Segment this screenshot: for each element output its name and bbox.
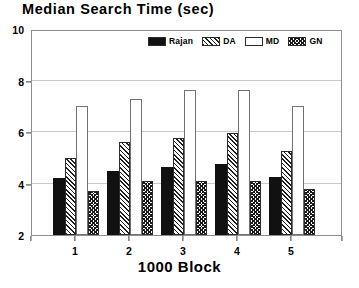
x-tick-label: 3: [180, 245, 186, 257]
legend-label: MD: [266, 36, 280, 46]
x-tick-mark: [236, 236, 237, 241]
x-tick-mark: [290, 236, 291, 241]
y-tick-label: 8: [18, 76, 24, 88]
chart-legend: RajanDAMDGN: [148, 36, 323, 46]
bar-gn-4: [250, 181, 262, 235]
legend-item-gn[interactable]: GN: [288, 36, 322, 46]
legend-label: DA: [223, 36, 236, 46]
legend-item-md[interactable]: MD: [245, 36, 280, 46]
legend-item-da[interactable]: DA: [202, 36, 236, 46]
bar-md-4: [238, 90, 250, 235]
bar-rajan-5: [269, 177, 281, 235]
bar-rajan-2: [107, 171, 119, 235]
bar-md-3: [184, 90, 196, 235]
legend-swatch-rajan: [148, 37, 166, 46]
bar-gn-2: [142, 181, 154, 235]
chart-title: Median Search Time (sec): [22, 1, 214, 17]
legend-swatch-gn: [288, 37, 306, 46]
bars-layer: [32, 31, 341, 235]
x-tick-mark: [182, 236, 183, 241]
legend-label: GN: [309, 36, 322, 46]
bar-md-2: [130, 99, 142, 235]
x-axis: 12345: [31, 236, 342, 258]
bar-da-1: [65, 158, 77, 235]
legend-item-rajan[interactable]: Rajan: [148, 36, 193, 46]
x-tick-label: 2: [126, 245, 132, 257]
y-tick-label: 4: [18, 179, 24, 191]
legend-label: Rajan: [169, 36, 193, 46]
x-axis-title: 1000 Block: [0, 258, 359, 275]
bar-chart: Median Search Time (sec) 246810 RajanDAM…: [0, 0, 359, 288]
bar-gn-1: [88, 191, 100, 235]
bar-da-4: [227, 133, 239, 235]
y-tick-label: 6: [18, 127, 24, 139]
x-tick-label: 4: [234, 245, 240, 257]
bar-rajan-4: [215, 164, 227, 235]
x-tick-mark: [74, 236, 75, 241]
x-axis-end-mark: [30, 236, 31, 241]
x-tick-label: 5: [288, 245, 294, 257]
bar-gn-5: [304, 189, 316, 235]
x-axis-end-mark: [341, 236, 342, 241]
y-tick-label: 10: [12, 24, 24, 36]
x-tick-mark: [128, 236, 129, 241]
bar-md-1: [76, 106, 88, 235]
y-axis: 246810: [0, 30, 31, 236]
x-tick-label: 1: [72, 245, 78, 257]
bar-rajan-1: [53, 178, 65, 235]
bar-da-3: [173, 138, 185, 235]
bar-gn-3: [196, 181, 208, 235]
plot-area: [31, 30, 342, 236]
legend-swatch-md: [245, 37, 263, 46]
legend-swatch-da: [202, 37, 220, 46]
y-tick-label: 2: [18, 230, 24, 242]
bar-da-2: [119, 142, 131, 235]
bar-da-5: [281, 151, 293, 235]
bar-rajan-3: [161, 167, 173, 235]
bar-md-5: [292, 106, 304, 235]
